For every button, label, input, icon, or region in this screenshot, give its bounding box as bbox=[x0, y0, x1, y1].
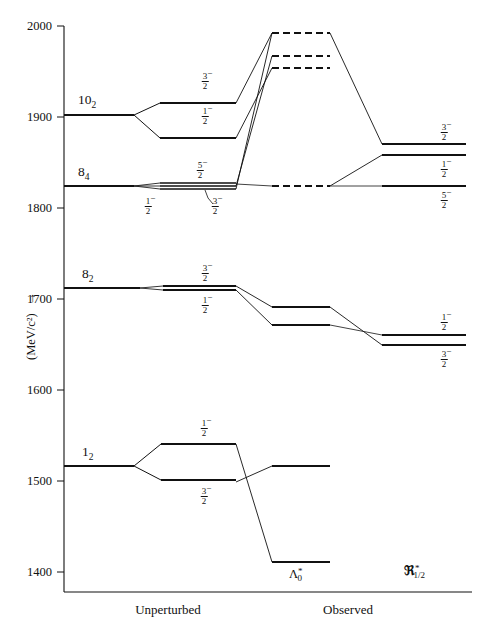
connector-3half-to-dashed-top bbox=[236, 33, 272, 103]
connector-8-4-to-3half bbox=[134, 186, 160, 189]
connector-8-4-5half-to-flat bbox=[236, 184, 272, 186]
connector-dashed-flat-to-final-1half bbox=[330, 155, 382, 186]
multiplet-1-2-group bbox=[64, 444, 330, 562]
energy-level-diagram: 2000 1900 1800 1700 1600 1500 1400 (MeV/… bbox=[0, 0, 477, 636]
multiplet-8-2-group bbox=[64, 286, 272, 325]
connector-8-4-to-5half bbox=[134, 183, 160, 186]
connector-1-2-1half-to-lambda bbox=[236, 444, 272, 562]
observed-mid-8-2 bbox=[272, 307, 466, 345]
connector-1-2-3half-to-observed bbox=[236, 466, 272, 482]
multiplet-8-4-group bbox=[64, 33, 272, 204]
connector-1-2-to-3half bbox=[134, 466, 161, 480]
connector-8-4-1half-to-dashed-mid bbox=[236, 56, 272, 186]
observed-final-upper bbox=[382, 144, 466, 186]
connector-1-2-to-1half bbox=[134, 444, 161, 466]
y-axis-ticks bbox=[57, 26, 64, 572]
leader-line-8-4-3half bbox=[205, 190, 213, 204]
level-diagram-canvas bbox=[0, 0, 477, 636]
connector-8-2-to-1half bbox=[140, 288, 163, 290]
connector-mid-1687-to-final-3half bbox=[330, 307, 382, 345]
connector-8-2-3half-to-mid bbox=[236, 286, 272, 307]
connector-8-2-1half-to-mid bbox=[236, 290, 272, 325]
connector-10-2-to-1half bbox=[134, 115, 160, 138]
observed-dashed-levels bbox=[272, 33, 330, 186]
multiplet-10-2-group bbox=[64, 33, 272, 138]
axis-frame bbox=[64, 26, 472, 592]
connector-dashed-top-to-final-3half bbox=[330, 33, 382, 144]
observed-connectors bbox=[330, 33, 382, 186]
connector-8-2-to-3half bbox=[140, 286, 163, 288]
connector-1half-to-dashed-third bbox=[236, 68, 272, 138]
connector-10-2-to-3half bbox=[134, 103, 160, 115]
